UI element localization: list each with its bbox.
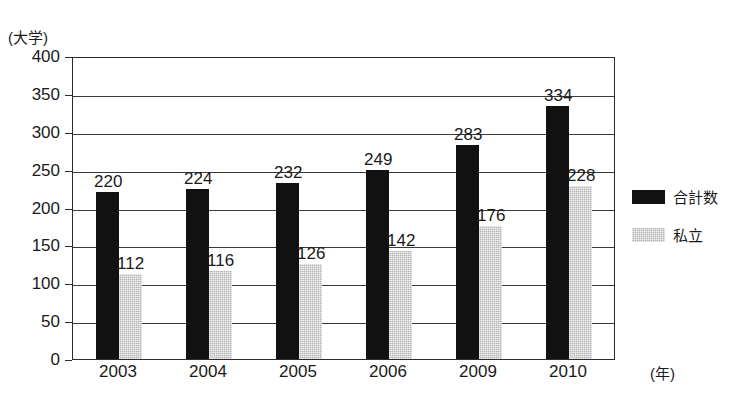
legend-item-private: 私立 — [632, 226, 718, 243]
y-tick-mark-200 — [65, 209, 72, 210]
bar-value-2006-total: 249 — [364, 150, 392, 170]
bar-2006-total — [366, 170, 389, 359]
bar-value-2005-private: 126 — [297, 244, 325, 264]
x-axis-unit-label: (年) — [650, 362, 675, 383]
bar-value-2003-total: 220 — [94, 172, 122, 192]
legend-swatch-private — [632, 228, 665, 242]
y-tick-label-400: 400 — [2, 47, 60, 67]
y-tick-mark-150 — [65, 246, 72, 247]
y-tick-mark-100 — [65, 284, 72, 285]
y-tick-mark-350 — [65, 95, 72, 96]
bar-value-2010-total: 334 — [544, 86, 572, 106]
y-tick-label-50: 50 — [2, 312, 60, 332]
y-tick-mark-250 — [65, 171, 72, 172]
bar-2003-private — [119, 274, 142, 359]
bar-2010-total — [546, 106, 569, 359]
bar-2004-total — [186, 189, 209, 359]
legend-label-private: 私立 — [673, 224, 703, 245]
bar-2005-total — [276, 183, 299, 359]
bar-2003-total — [96, 192, 119, 359]
gridline-350 — [73, 96, 614, 97]
bar-chart-figure: (大学) (年) 050100150200250300350400 220112… — [0, 0, 736, 414]
bar-2009-total — [456, 145, 479, 359]
y-tick-mark-0 — [65, 360, 72, 361]
gridline-100 — [73, 285, 614, 286]
gridline-200 — [73, 210, 614, 211]
bar-value-2004-private: 116 — [207, 251, 234, 271]
legend-item-total: 合計数 — [632, 188, 718, 205]
y-tick-label-350: 350 — [2, 85, 60, 105]
bar-value-2009-private: 176 — [477, 206, 505, 226]
x-tick-label-2004: 2004 — [173, 362, 243, 382]
bar-2006-private — [389, 251, 412, 359]
bar-value-2010-private: 228 — [567, 166, 595, 186]
y-tick-label-150: 150 — [2, 236, 60, 256]
x-tick-label-2005: 2005 — [263, 362, 333, 382]
y-tick-mark-50 — [65, 322, 72, 323]
bar-value-2009-total: 283 — [454, 125, 482, 145]
y-tick-label-250: 250 — [2, 161, 60, 181]
legend: 合計数私立 — [632, 188, 718, 264]
gridline-50 — [73, 323, 614, 324]
y-tick-mark-300 — [65, 133, 72, 134]
y-tick-label-100: 100 — [2, 274, 60, 294]
bar-2009-private — [479, 226, 502, 359]
y-tick-label-0: 0 — [2, 350, 60, 370]
x-tick-label-2003: 2003 — [83, 362, 153, 382]
bar-value-2003-private: 112 — [117, 254, 144, 274]
gridline-150 — [73, 247, 614, 248]
x-tick-label-2006: 2006 — [353, 362, 423, 382]
y-tick-mark-400 — [65, 57, 72, 58]
plot-area: 220112224116232126249142283176334228 — [72, 57, 615, 360]
y-tick-label-300: 300 — [2, 123, 60, 143]
gridline-300 — [73, 134, 614, 135]
bar-value-2006-private: 142 — [387, 231, 415, 251]
bar-2005-private — [299, 264, 322, 359]
legend-swatch-total — [632, 190, 665, 204]
bar-value-2004-total: 224 — [184, 169, 212, 189]
y-tick-label-200: 200 — [2, 199, 60, 219]
y-axis-unit-label: (大学) — [8, 26, 48, 47]
x-tick-label-2009: 2009 — [443, 362, 513, 382]
bar-2004-private — [209, 271, 232, 359]
bar-2010-private — [569, 186, 592, 359]
gridline-250 — [73, 172, 614, 173]
bar-value-2005-total: 232 — [274, 163, 302, 183]
x-tick-label-2010: 2010 — [533, 362, 603, 382]
legend-label-total: 合計数 — [673, 186, 718, 207]
